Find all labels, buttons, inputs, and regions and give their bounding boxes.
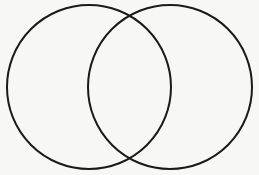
venn-diagram	[0, 0, 259, 175]
background	[0, 0, 259, 175]
